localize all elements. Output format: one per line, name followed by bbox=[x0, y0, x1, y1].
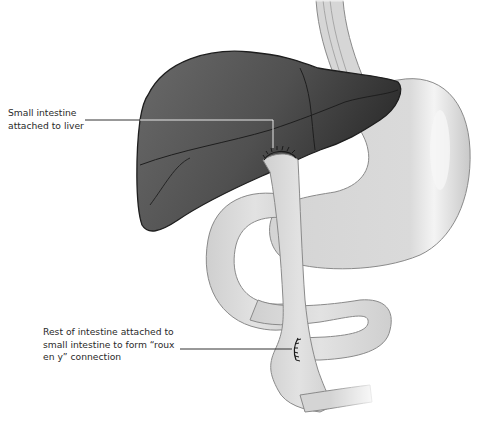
label-roux-y-anastomosis: Rest of intestine attached to small inte… bbox=[43, 326, 175, 364]
label-liver-anastomosis: Small intestine attached to liver bbox=[8, 107, 84, 132]
diagram-canvas: Small intestine attached to liver Rest o… bbox=[0, 0, 477, 422]
